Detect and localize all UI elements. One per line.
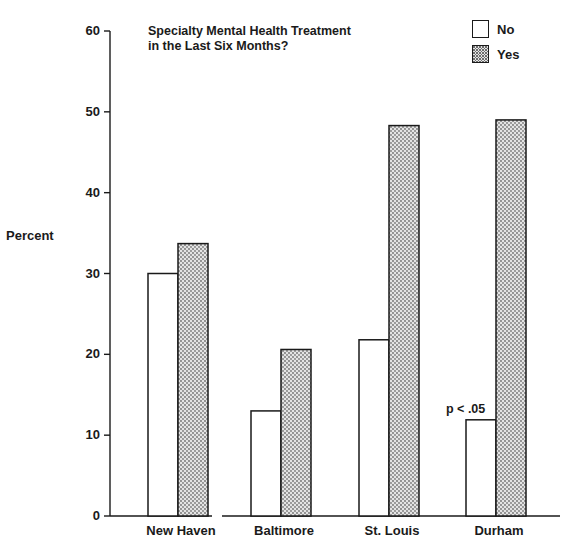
y-tick-label: 20 xyxy=(60,346,100,361)
bar-durham-yes xyxy=(496,120,526,516)
bar-new-haven-no xyxy=(148,274,178,517)
legend-item-no: No xyxy=(472,19,514,39)
x-category-label: Baltimore xyxy=(229,523,339,538)
bar-new-haven-yes xyxy=(178,244,208,516)
y-tick-label: 10 xyxy=(60,427,100,442)
legend-swatch-yes xyxy=(472,45,489,63)
y-tick-label: 40 xyxy=(60,185,100,200)
x-category-label: Durham xyxy=(444,523,554,538)
bar-durham-no xyxy=(466,420,496,516)
chart-title-line-2: in the Last Six Months? xyxy=(148,39,351,54)
legend-label-no: No xyxy=(497,22,514,37)
bar-st-louis-no xyxy=(359,340,389,516)
y-tick-label: 60 xyxy=(60,23,100,38)
legend-item-yes: Yes xyxy=(472,44,519,64)
legend-label-yes: Yes xyxy=(497,47,519,62)
bars xyxy=(148,120,526,516)
legend-swatch-no xyxy=(472,20,489,38)
chart-title: Specialty Mental Health Treatment in the… xyxy=(148,24,351,54)
bar-st-louis-yes xyxy=(389,126,419,516)
y-tick-label: 0 xyxy=(60,508,100,523)
y-tick-label: 50 xyxy=(60,104,100,119)
bar-baltimore-yes xyxy=(281,349,311,516)
y-axis-label: Percent xyxy=(6,228,54,243)
chart-title-line-1: Specialty Mental Health Treatment xyxy=(148,24,351,39)
significance-annotation: p < .05 xyxy=(446,402,485,416)
x-category-label: St. Louis xyxy=(337,523,447,538)
x-category-label: New Haven xyxy=(126,523,236,538)
y-tick-label: 30 xyxy=(60,266,100,281)
bar-baltimore-no xyxy=(251,411,281,516)
